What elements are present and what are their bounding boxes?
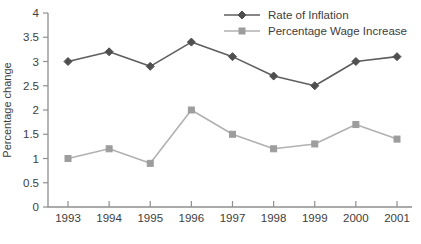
y-axis-tick-label: 2 [33,104,39,116]
legend-label: Rate of Inflation [268,9,349,21]
data-point-marker-square [147,160,153,166]
y-axis-tick-label: 2.5 [23,80,39,92]
data-point-marker-diamond [270,72,278,80]
x-axis-year-label: 1997 [220,212,246,224]
x-axis-year-label: 1996 [179,212,205,224]
data-point-marker-square [271,146,277,152]
data-point-marker-diamond [352,58,360,66]
y-axis-tick-label: 1 [33,153,39,165]
data-point-marker-diamond [187,38,195,46]
x-axis-year-label: 1994 [96,212,122,224]
y-axis-title: Percentage change [1,62,13,157]
data-point-marker-square [353,122,359,128]
data-point-marker-square [65,156,71,162]
y-axis-tick-label: 0 [33,201,39,213]
x-axis-year-label: 2001 [384,212,410,224]
axis-lines [48,13,412,207]
y-axis-tick-label: 3 [33,56,39,68]
data-point-marker-square [106,146,112,152]
data-point-marker-diamond [146,62,154,70]
y-axis-tick-label: 1.5 [23,128,39,140]
series-line-0 [68,42,397,86]
data-point-marker-diamond [64,58,72,66]
x-axis-year-label: 1998 [261,212,287,224]
x-axis-year-label: 1993 [55,212,81,224]
data-point-marker-diamond [229,53,237,61]
data-point-marker-square [394,136,400,142]
line-chart: Percentage change 00.511.522.533.5419931… [0,0,421,244]
data-point-marker-square [230,131,236,137]
data-point-marker-square [188,107,194,113]
x-axis-year-label: 1995 [137,212,163,224]
x-axis-year-label: 2000 [343,212,369,224]
y-axis-tick-label: 3.5 [23,31,39,43]
x-axis-year-label: 1999 [302,212,328,224]
legend-marker-diamond [238,11,246,19]
data-point-marker-diamond [393,53,401,61]
data-point-marker-diamond [105,48,113,56]
data-point-marker-diamond [311,82,319,90]
data-point-marker-square [312,141,318,147]
legend-marker-square [239,28,245,34]
y-axis-tick-label: 0.5 [23,177,39,189]
legend-label: Percentage Wage Increase [268,25,407,37]
chart-canvas: Percentage change 00.511.522.533.5419931… [0,0,421,244]
y-axis-tick-label: 4 [33,7,40,19]
